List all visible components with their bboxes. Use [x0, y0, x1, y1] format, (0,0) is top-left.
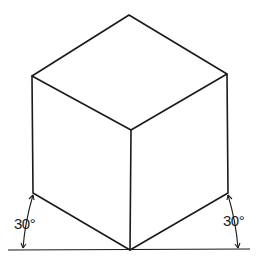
isometric-cube-diagram: 30° 30°	[0, 0, 261, 264]
cube-top-face	[32, 15, 227, 130]
cube-right-face	[130, 74, 228, 250]
left-angle-label: 30°	[14, 215, 36, 232]
right-angle-label: 30°	[223, 212, 245, 229]
